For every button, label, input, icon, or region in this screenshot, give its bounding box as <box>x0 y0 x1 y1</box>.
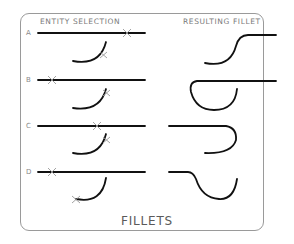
row-d-arc <box>76 178 106 200</box>
result-c-fillet <box>169 126 236 153</box>
result-a-fillet <box>205 35 276 64</box>
row-c-arc <box>73 134 106 154</box>
fillet-diagram <box>0 0 294 244</box>
result-b-fillet <box>191 81 276 110</box>
result-d-fillet <box>169 172 237 199</box>
diagram-title: FILLETS <box>0 214 294 228</box>
row-a-arc <box>73 42 106 62</box>
row-b-arc <box>73 89 106 109</box>
pick-mark-a-arc <box>100 52 107 58</box>
